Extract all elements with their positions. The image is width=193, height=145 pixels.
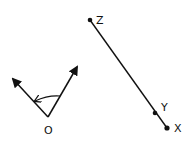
point-z xyxy=(88,18,93,23)
point-x xyxy=(164,125,169,130)
label-z: Z xyxy=(96,14,104,27)
label-y: Y xyxy=(160,101,168,114)
label-o: O xyxy=(44,124,53,137)
point-y xyxy=(153,111,158,116)
segment-zx: Z Y X xyxy=(88,14,182,135)
angle-arc-arrow xyxy=(35,96,60,101)
angle-o: O xyxy=(13,67,77,137)
label-x: X xyxy=(174,122,182,135)
diagram-canvas: O Z Y X xyxy=(0,0,193,145)
ray-right xyxy=(48,67,77,117)
